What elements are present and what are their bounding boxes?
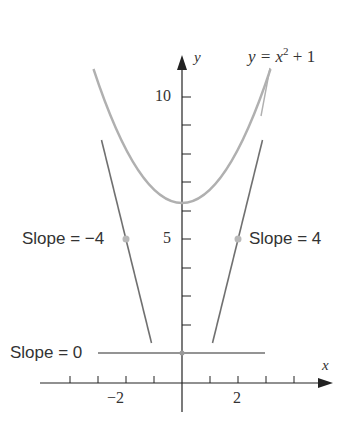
x-tick-neg2: −2	[107, 389, 124, 407]
x-axis-label: x	[322, 357, 329, 374]
slope-label-bottom: Slope = 0	[10, 343, 82, 363]
y-axis-arrow-icon	[177, 55, 187, 70]
slope-label-right: Slope = 4	[249, 229, 321, 249]
x-axis-arrow-icon	[318, 378, 333, 388]
equation-lhs: y = x	[248, 47, 283, 66]
equation-rhs: + 1	[289, 47, 316, 66]
point-vertex	[180, 351, 185, 356]
y-tick-10: 10	[155, 87, 171, 105]
y-axis	[177, 55, 191, 412]
equation-label: y = x2 + 1	[248, 45, 315, 67]
y-axis-label: y	[194, 49, 201, 66]
point-right	[235, 236, 242, 243]
y-tick-5: 5	[163, 229, 171, 247]
point-left	[123, 236, 130, 243]
x-axis	[40, 376, 333, 388]
x-tick-2: 2	[233, 389, 241, 407]
slope-label-left: Slope = −4	[22, 229, 104, 249]
